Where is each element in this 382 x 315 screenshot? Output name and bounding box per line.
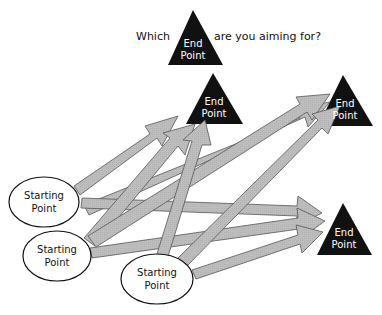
label-line-2: Point — [20, 256, 94, 269]
label-line-1: End — [314, 227, 374, 239]
starting-point-label-2: Starting Point — [20, 243, 94, 269]
end-point-label-3: End Point — [314, 227, 374, 251]
label-line-1: End — [184, 96, 244, 108]
header-end-point-label: End Point — [163, 38, 223, 62]
label-line-1: Starting — [120, 266, 194, 279]
label-line-2: Point — [184, 108, 244, 120]
label-line-2: Point — [315, 110, 375, 122]
starting-point-label-3: Starting Point — [120, 266, 194, 292]
label-line-1: Starting — [7, 189, 81, 202]
question-suffix: are you aiming for? — [214, 30, 321, 43]
label-line-2: Point — [163, 50, 223, 62]
label-line-1: Starting — [20, 243, 94, 256]
starting-point-label-1: Starting Point — [7, 189, 81, 215]
label-line-2: Point — [314, 239, 374, 251]
label-line-1: End — [315, 98, 375, 110]
label-line-2: Point — [120, 279, 194, 292]
label-line-2: Point — [7, 202, 81, 215]
label-line-1: End — [163, 38, 223, 50]
end-point-label-1: End Point — [184, 96, 244, 120]
end-point-label-2: End Point — [315, 98, 375, 122]
